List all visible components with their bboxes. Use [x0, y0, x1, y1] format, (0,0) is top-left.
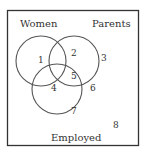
parents-label: Parents — [92, 18, 131, 29]
women-label: Women — [20, 18, 58, 29]
venn-diagram: Women Parents Employed 1 2 3 4 5 6 7 8 — [0, 0, 146, 152]
region-7: 7 — [71, 106, 77, 116]
employed-label: Employed — [51, 132, 102, 143]
region-2: 2 — [71, 48, 77, 58]
region-8: 8 — [113, 120, 119, 130]
region-1: 1 — [38, 55, 44, 65]
region-5: 5 — [71, 71, 77, 81]
region-4: 4 — [51, 83, 57, 93]
region-3: 3 — [101, 53, 107, 63]
region-6: 6 — [90, 83, 96, 93]
